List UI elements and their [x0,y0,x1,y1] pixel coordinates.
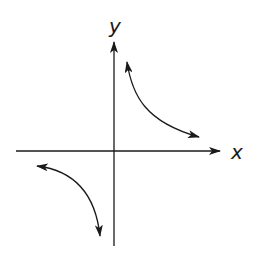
curve-branch-quadrant-3 [37,166,100,236]
hyperbola-graph: y x [0,0,259,257]
x-axis-label: x [230,140,243,164]
y-axis-label: y [108,14,122,38]
curve-branch-quadrant-1 [127,62,199,137]
